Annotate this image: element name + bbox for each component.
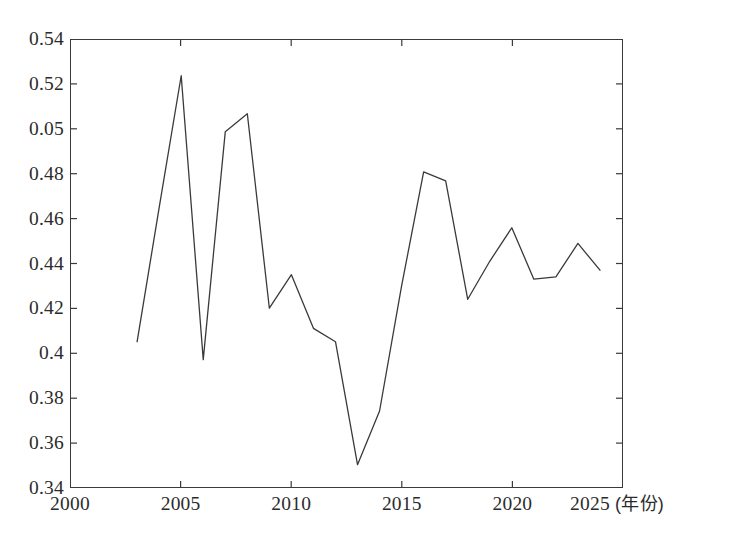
x-axis-tick-label: 2015 bbox=[382, 494, 422, 514]
x-axis-tick-label: 2020 bbox=[492, 494, 532, 514]
line-chart-figure: 0.540.520.050.480.460.440.420.40.380.360… bbox=[0, 0, 730, 550]
x-axis-tick-label: 2000 bbox=[50, 494, 90, 514]
x-axis-tick-label: 2010 bbox=[271, 494, 311, 514]
x-axis-unit-label: (年份) bbox=[610, 494, 664, 514]
x-axis-tick-label: 2025 (年份) bbox=[570, 494, 664, 514]
x-axis-tick-labels: 200020052010201520202025 (年份) bbox=[0, 0, 730, 550]
x-axis-tick-label: 2005 bbox=[161, 494, 201, 514]
